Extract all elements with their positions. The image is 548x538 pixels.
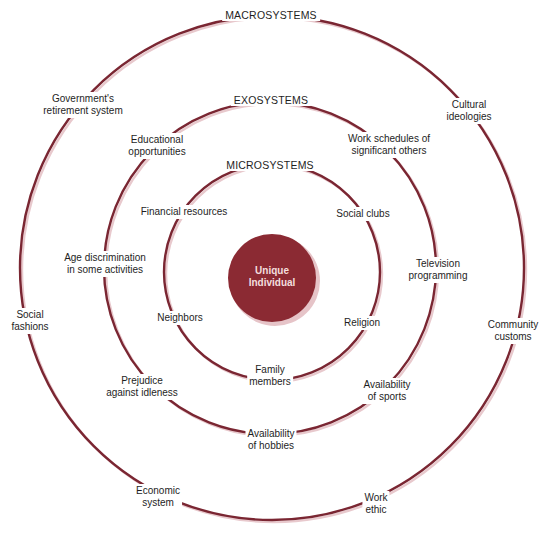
macrosystems-title: MACROSYSTEMS <box>222 9 320 21</box>
exo-item-age-discrimination: Age discrimination in some activities <box>62 251 148 277</box>
macro-item-economic-system: Economic system <box>134 484 182 510</box>
center-label: Unique Individual <box>249 265 296 289</box>
micro-item-neighbors: Neighbors <box>155 311 205 325</box>
exo-item-availability-of-hobbies: Availability of hobbies <box>245 427 296 453</box>
macro-item-governments-retirement-system: Government's retirement system <box>41 92 124 118</box>
exo-item-prejudice-against-idleness: Prejudice against idleness <box>104 374 180 400</box>
micro-item-financial-resources: Financial resources <box>139 205 230 219</box>
micro-item-family-members: Family members <box>247 363 293 389</box>
exo-item-availability-of-sports: Availability of sports <box>361 378 412 404</box>
exo-item-television-programming: Television programming <box>407 257 470 283</box>
exosystems-title: EXOSYSTEMS <box>231 94 311 106</box>
center-label-line1: Unique <box>249 265 296 277</box>
center-label-line2: Individual <box>249 277 296 289</box>
macro-item-social-fashions: Social fashions <box>9 308 50 334</box>
exo-item-work-schedules-of-significant-others: Work schedules of significant others <box>346 132 432 158</box>
microsystems-title: MICROSYSTEMS <box>223 159 317 171</box>
macro-item-work-ethic: Work ethic <box>362 491 389 517</box>
macro-item-cultural-ideologies: Cultural ideologies <box>444 98 493 124</box>
micro-item-social-clubs: Social clubs <box>334 207 391 221</box>
micro-item-religion: Religion <box>342 316 382 330</box>
macro-item-community-customs: Community customs <box>486 318 541 344</box>
exo-item-educational-opportunities: Educational opportunities <box>126 133 187 159</box>
